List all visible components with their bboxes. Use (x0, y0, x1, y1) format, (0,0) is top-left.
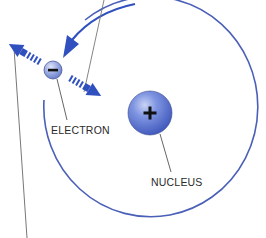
arrow-outward-icon (5, 38, 43, 68)
electron-label: ELECTRON (51, 125, 110, 136)
leader-line-electron (57, 79, 67, 120)
atom-diagram (0, 0, 266, 238)
arrow-inward-icon (67, 72, 105, 102)
leader-line-left (14, 48, 27, 238)
nucleus-label: NUCLEUS (151, 177, 203, 188)
orbit-arrow-icon (63, 4, 135, 58)
nucleus-icon (128, 91, 172, 135)
leader-line-nucleus (160, 134, 171, 172)
electron-icon (44, 61, 62, 79)
